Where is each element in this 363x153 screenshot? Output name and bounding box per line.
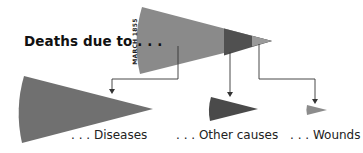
caption-wounds: . . . Wounds xyxy=(290,128,360,142)
diagram-title: Deaths due to . . . xyxy=(24,33,163,49)
caption-other-causes: . . . Other causes xyxy=(176,128,278,142)
arrowhead-other xyxy=(227,92,233,97)
caption-diseases: . . . Diseases xyxy=(71,128,147,142)
wedge-wounds-segment xyxy=(252,36,272,47)
month-label: MARCH 1855 xyxy=(131,12,138,72)
wedge-wounds xyxy=(306,105,327,115)
arrow-wounds xyxy=(259,44,315,100)
wedge-other-causes xyxy=(209,97,258,121)
arrowhead-wounds xyxy=(312,99,318,104)
arrowhead-diseases xyxy=(109,89,115,94)
